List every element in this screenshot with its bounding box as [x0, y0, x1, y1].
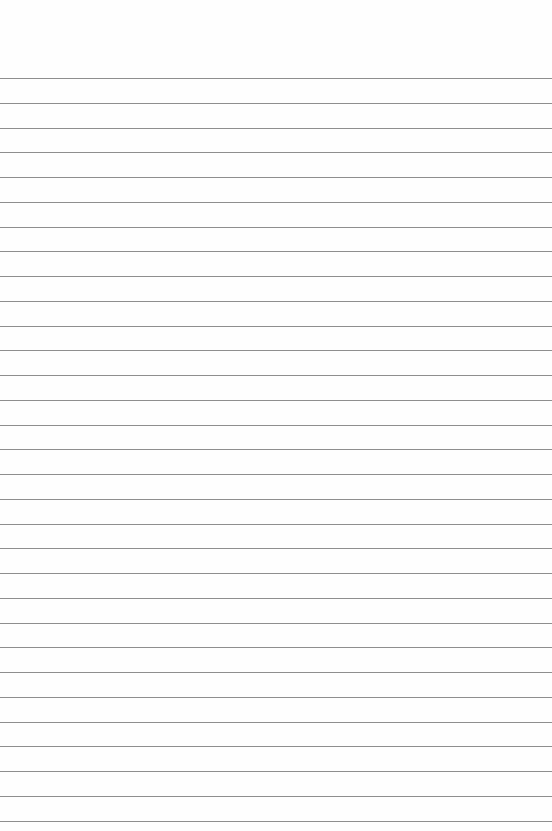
ruled-line [0, 598, 552, 599]
ruled-line [0, 548, 552, 549]
ruled-line [0, 276, 552, 277]
ruled-line [0, 449, 552, 450]
ruled-line [0, 103, 552, 104]
ruled-line [0, 524, 552, 525]
ruled-line [0, 400, 552, 401]
lined-paper-sheet [0, 0, 552, 831]
ruled-line [0, 697, 552, 698]
ruled-line [0, 771, 552, 772]
ruled-line [0, 573, 552, 574]
ruled-line [0, 425, 552, 426]
ruled-line [0, 499, 552, 500]
ruled-line [0, 202, 552, 203]
ruled-line [0, 177, 552, 178]
ruled-line [0, 796, 552, 797]
ruled-line [0, 647, 552, 648]
ruled-line [0, 251, 552, 252]
ruled-line [0, 746, 552, 747]
ruled-line [0, 350, 552, 351]
ruled-line [0, 78, 552, 79]
ruled-line [0, 722, 552, 723]
ruled-line [0, 227, 552, 228]
ruled-line [0, 152, 552, 153]
ruled-line [0, 474, 552, 475]
ruled-line [0, 672, 552, 673]
ruled-line [0, 301, 552, 302]
ruled-line [0, 128, 552, 129]
ruled-line [0, 326, 552, 327]
ruled-line [0, 375, 552, 376]
ruled-line [0, 623, 552, 624]
ruled-line [0, 821, 552, 822]
